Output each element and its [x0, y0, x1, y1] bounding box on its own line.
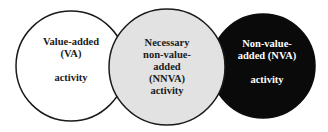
nnva-label: Necessary non-value- added (NNVA) activi…: [122, 37, 212, 97]
va-label: Value-added (VA) activity: [30, 36, 112, 84]
nva-label: Non-value- added (NVA) activity: [226, 38, 308, 86]
